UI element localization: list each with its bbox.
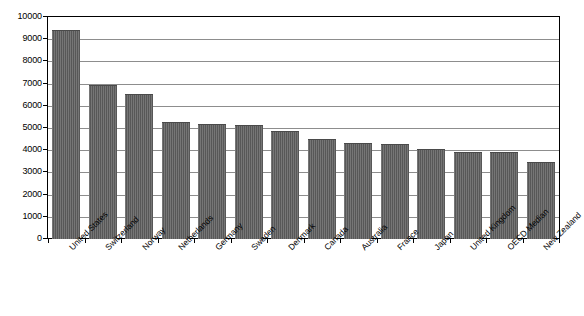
bar-slot: [231, 17, 268, 239]
x-axis-tick: [85, 239, 86, 243]
bars-container: [48, 17, 559, 239]
bar-slot: [340, 17, 377, 239]
x-axis-tick: [486, 239, 487, 243]
bar: [162, 122, 190, 239]
y-axis-tick: [43, 149, 47, 150]
bar-slot: [85, 17, 122, 239]
y-axis-tick-label: 8000: [0, 56, 42, 65]
y-axis-tick-label: 2000: [0, 190, 42, 199]
y-axis-tick-label: 9000: [0, 34, 42, 43]
x-axis-labels: United StatesSwitzerlandNorwayNetherland…: [48, 241, 559, 316]
bar: [52, 30, 80, 239]
y-axis-tick: [43, 194, 47, 195]
x-axis-tick: [523, 239, 524, 243]
bar: [271, 131, 299, 239]
x-axis-tick: [377, 239, 378, 243]
y-axis-tick-label: 1000: [0, 212, 42, 221]
x-axis-tick: [48, 239, 49, 243]
y-axis-tick: [43, 105, 47, 106]
y-axis-tick-label: 4000: [0, 145, 42, 154]
x-axis-tick: [267, 239, 268, 243]
x-axis-tick: [559, 239, 560, 243]
y-axis-tick: [43, 60, 47, 61]
y-axis-tick: [43, 83, 47, 84]
bar-slot: [194, 17, 231, 239]
y-axis-tick: [43, 171, 47, 172]
bar-slot: [158, 17, 195, 239]
y-axis-tick-label: 0: [0, 234, 42, 243]
y-axis-tick: [43, 238, 47, 239]
bar-slot: [486, 17, 523, 239]
x-axis-tick: [304, 239, 305, 243]
x-axis-tick: [450, 239, 451, 243]
bar: [417, 149, 445, 239]
y-axis-tick: [43, 216, 47, 217]
x-axis-tick: [158, 239, 159, 243]
x-axis-tick: [121, 239, 122, 243]
y-axis-tick-label: 10000: [0, 12, 42, 21]
bar: [344, 143, 372, 239]
y-axis-tick: [43, 38, 47, 39]
bar: [454, 152, 482, 239]
y-axis-tick-label: 7000: [0, 79, 42, 88]
x-axis-tick: [340, 239, 341, 243]
bar-slot: [450, 17, 487, 239]
bar-slot: [304, 17, 341, 239]
y-axis-tick-label: 5000: [0, 123, 42, 132]
y-axis-tick-label: 6000: [0, 101, 42, 110]
y-axis-tick-label: 3000: [0, 167, 42, 176]
y-axis-labels: 0100020003000400050006000700080009000100…: [0, 0, 42, 256]
bar-slot: [48, 17, 85, 239]
y-axis-tick: [43, 16, 47, 17]
bar-slot: [377, 17, 414, 239]
y-axis-tick: [43, 127, 47, 128]
bar-slot: [523, 17, 560, 239]
bar-slot: [267, 17, 304, 239]
x-axis-tick: [413, 239, 414, 243]
bar-slot: [121, 17, 158, 239]
x-axis-tick: [231, 239, 232, 243]
x-axis-tick: [194, 239, 195, 243]
bar-slot: [413, 17, 450, 239]
